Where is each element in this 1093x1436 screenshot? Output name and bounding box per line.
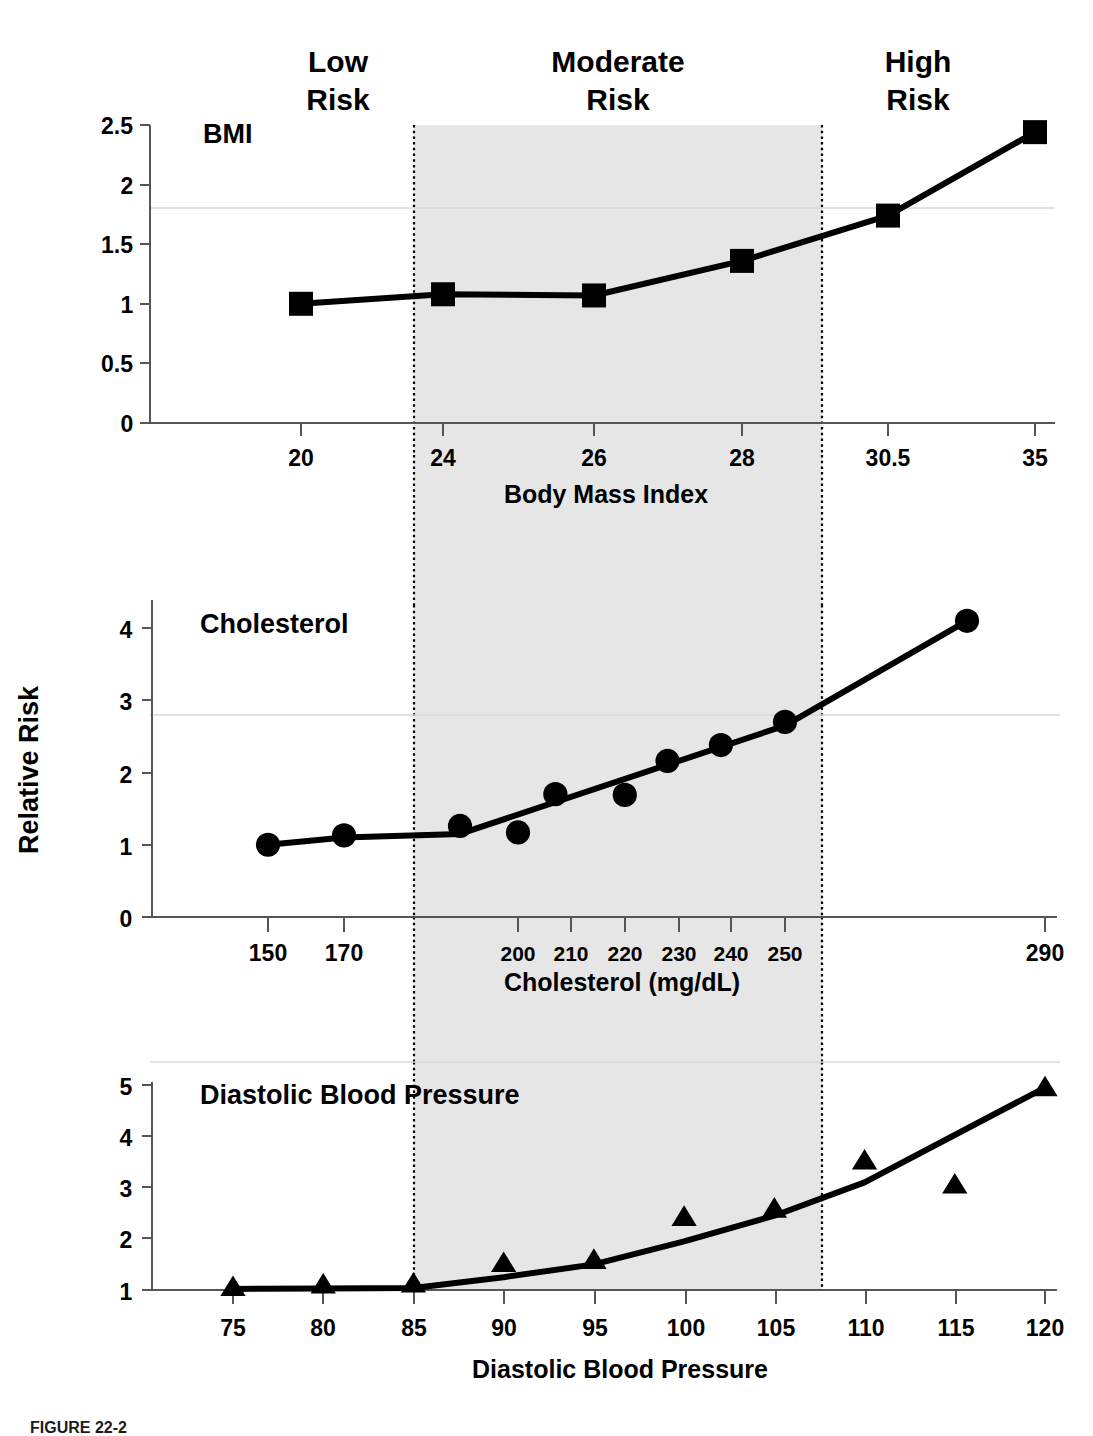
data-point-marker [730,249,754,273]
bmi-xtick-28: 28 [729,445,755,471]
dbp-xtick-95: 95 [582,1315,608,1341]
relative-risk-multi-panel-figure: Low Risk Moderate Risk High Risk Relativ… [0,0,1093,1436]
dbp-xtick-120: 120 [1026,1315,1064,1341]
dbp-xtick-100: 100 [667,1315,705,1341]
chol-ytick-0: 0 [120,906,133,932]
bmi-ytick-2-5: 2.5 [101,113,133,139]
chol-xtick-210: 210 [553,942,588,965]
chol-ytick-2: 2 [120,762,133,788]
data-point-marker [256,833,280,857]
bmi-ytick-1-5: 1.5 [101,232,133,258]
data-point-marker [448,814,472,838]
data-point-marker [332,823,356,847]
cholesterol-x-axis-title: Cholesterol (mg/dL) [504,968,740,996]
panel-title-bmi: BMI [203,119,253,149]
panel-title-cholesterol: Cholesterol [200,609,349,639]
panel-title-dbp: Diastolic Blood Pressure [200,1080,520,1110]
data-point-marker [289,292,313,316]
risk-band-headers: Low Risk Moderate Risk High Risk [306,45,951,116]
chol-ytick-3: 3 [120,689,133,715]
risk-header-moderate-line1: Moderate [551,45,684,78]
chol-xtick-250: 250 [767,942,802,965]
dbp-xtick-80: 80 [310,1315,336,1341]
data-point-marker [709,733,733,757]
dbp-xtick-85: 85 [401,1315,427,1341]
chol-xtick-170: 170 [325,940,363,966]
dbp-xtick-90: 90 [491,1315,517,1341]
bmi-xtick-24: 24 [430,445,456,471]
figure-caption: FIGURE 22-2 [30,1419,127,1436]
data-point-marker [506,820,530,844]
bmi-ytick-2: 2 [121,173,134,199]
bmi-x-axis-title: Body Mass Index [504,480,708,508]
dbp-xtick-105: 105 [757,1315,796,1341]
risk-header-moderate-line2: Risk [586,83,650,116]
bmi-y-ticks: 2.5 2 1.5 1 0.5 0 [101,113,150,437]
dbp-xtick-75: 75 [220,1315,246,1341]
risk-header-low-line2: Risk [306,83,370,116]
data-point-marker [1023,120,1047,144]
risk-header-high-line1: High [885,45,952,78]
data-point-marker [942,1173,967,1194]
data-point-marker [655,749,679,773]
data-point-marker [582,283,606,307]
data-point-marker [311,1273,336,1294]
dbp-x-axis-title: Diastolic Blood Pressure [472,1355,768,1383]
dbp-xtick-110: 110 [847,1315,884,1341]
dbp-ytick-1: 1 [120,1279,133,1305]
moderate-risk-shaded-band [414,125,822,1290]
cholesterol-y-ticks: 4 3 2 1 0 [120,617,152,932]
dbp-ytick-5: 5 [120,1074,133,1100]
dbp-x-ticks: 75 80 85 90 95 100 105 110 115 120 [220,1290,1064,1341]
chol-xtick-220: 220 [607,942,642,965]
data-point-marker [876,204,900,228]
data-point-marker [543,782,567,806]
bmi-xtick-26: 26 [581,445,607,471]
figure-container: Low Risk Moderate Risk High Risk Relativ… [0,0,1093,1436]
dbp-y-ticks: 5 4 3 2 1 [120,1074,152,1305]
y-axis-title: Relative Risk [14,685,44,854]
chol-ytick-1: 1 [120,834,133,860]
data-point-marker [773,710,797,734]
data-point-marker [613,783,637,807]
chol-xtick-290: 290 [1026,940,1064,966]
chol-xtick-230: 230 [661,942,696,965]
risk-header-low-line1: Low [308,45,369,78]
chol-ytick-4: 4 [120,617,133,643]
bmi-xtick-35: 35 [1022,445,1048,471]
data-point-marker [955,609,979,633]
dbp-xtick-115: 115 [937,1315,974,1341]
bmi-ytick-0-5: 0.5 [101,351,133,377]
data-point-marker [1032,1076,1057,1097]
bmi-xtick-30-5: 30.5 [866,445,911,471]
chol-xtick-150: 150 [249,940,287,966]
data-point-marker [220,1276,245,1297]
chol-xtick-240: 240 [713,942,748,965]
bmi-xtick-20: 20 [288,445,314,471]
bmi-ytick-1: 1 [121,292,134,318]
chol-xtick-200: 200 [500,942,535,965]
dbp-ytick-3: 3 [120,1176,133,1202]
dbp-ytick-4: 4 [120,1125,133,1151]
bmi-ytick-0: 0 [121,411,134,437]
data-point-marker [852,1149,877,1170]
dbp-ytick-2: 2 [120,1227,133,1253]
data-point-marker [431,282,455,306]
risk-header-high-line2: Risk [886,83,950,116]
